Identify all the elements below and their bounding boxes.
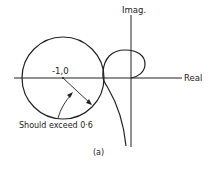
nyquist-curve — [103, 50, 145, 146]
leader-arrowhead-icon — [67, 92, 73, 98]
real-axis-label: Real — [184, 73, 202, 83]
nyquist-diagram: Imag. Real -1,0 Should exceed 0·6 (a) — [0, 0, 213, 177]
figure-caption: (a) — [93, 148, 104, 157]
annotation-text: Should exceed 0·6 — [19, 121, 93, 130]
critical-point-label: -1,0 — [52, 66, 69, 76]
imag-axis-label: Imag. — [122, 5, 146, 15]
